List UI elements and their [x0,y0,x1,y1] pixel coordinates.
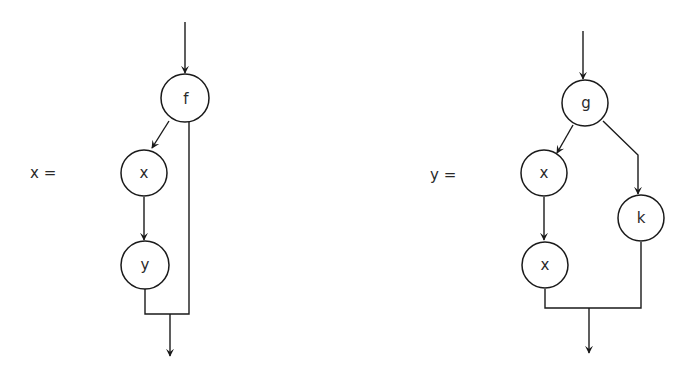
node-label-f: f [183,90,189,108]
node-g: g [562,80,608,126]
diagram-x: x = f x y [30,22,209,356]
edge-f-to-x [152,121,169,148]
node-x2: x [522,242,568,288]
edge-g-to-k [603,121,638,194]
node-x: x [121,150,167,196]
node-label-y: y [141,256,150,274]
node-x1: x [521,150,567,196]
node-label-g: g [581,94,591,112]
flow-diagrams: x = f x y y = g x [0,0,688,377]
edge-g-to-x1 [557,125,573,153]
diagram-label-x: x = [30,164,56,182]
node-f: f [161,74,209,122]
node-k: k [618,195,664,241]
node-label-x1: x [540,164,549,182]
node-label-x2: x [541,256,550,274]
diagram-y: y = g x x k [430,31,664,353]
node-label-k: k [637,209,646,227]
diagram-label-y: y = [430,166,456,184]
node-y: y [121,241,169,289]
node-label-x: x [140,164,149,182]
